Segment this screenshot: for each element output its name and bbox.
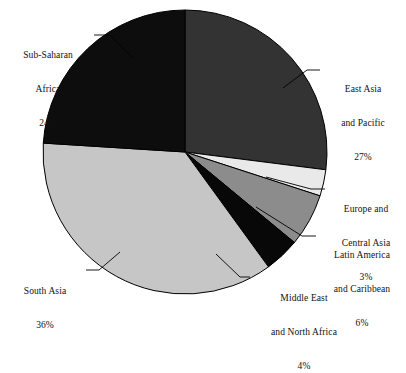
- pie-label-east-asia-pacific-percent: 27%: [322, 152, 404, 163]
- pie-label-south-asia: South Asia 36%: [6, 264, 84, 354]
- pie-label-middle-east-north-africa: Middle East and North Africa 4%: [252, 271, 356, 373]
- pie-slice-east-asia-pacific[interactable]: [185, 10, 327, 170]
- pie-label-east-asia-pacific: East Asia and Pacific 27%: [322, 62, 404, 185]
- pie-label-sub-saharan-africa: Sub-Saharan Africa 24%: [2, 28, 94, 151]
- pie-label-middle-east-north-africa-line1: Middle East: [252, 293, 356, 304]
- pie-label-middle-east-north-africa-line2: and North Africa: [252, 327, 356, 338]
- pie-label-south-asia-line1: South Asia: [6, 286, 84, 297]
- pie-label-middle-east-north-africa-percent: 4%: [252, 361, 356, 372]
- pie-label-sub-saharan-africa-percent: 24%: [2, 118, 94, 129]
- pie-label-east-asia-pacific-line1: East Asia: [322, 84, 404, 95]
- pie-label-south-asia-percent: 36%: [6, 320, 84, 331]
- pie-label-sub-saharan-africa-line1: Sub-Saharan: [2, 50, 94, 61]
- pie-label-sub-saharan-africa-line2: Africa: [2, 84, 94, 95]
- pie-label-east-asia-pacific-line2: and Pacific: [322, 118, 404, 129]
- pie-label-europe-central-asia-line1: Europe and: [327, 204, 405, 215]
- pie-label-latin-america-caribbean-line1: Latin America: [318, 250, 406, 261]
